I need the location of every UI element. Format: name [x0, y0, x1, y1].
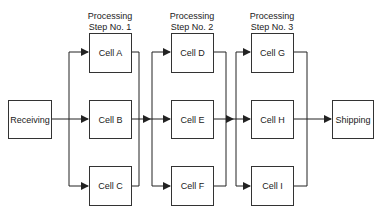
cell-d-box: Cell D	[171, 33, 214, 73]
cell-i-box: Cell I	[251, 166, 294, 206]
cell-a-box: Cell A	[89, 33, 132, 73]
step-2-title: Processing	[157, 11, 227, 22]
step-2-subtitle: Step No. 2	[157, 22, 227, 33]
step-3-title: Processing	[237, 11, 307, 22]
cell-h-box: Cell H	[251, 100, 294, 139]
cell-g-box: Cell G	[251, 33, 294, 73]
cell-h-label: Cell H	[260, 115, 285, 125]
cell-d-label: Cell D	[180, 48, 205, 58]
cell-a-label: Cell A	[99, 48, 123, 58]
step-2-header: ProcessingStep No. 2	[157, 11, 227, 33]
step-3-header: ProcessingStep No. 3	[237, 11, 307, 33]
step-1-title: Processing	[75, 11, 145, 22]
cell-c-box: Cell C	[89, 166, 132, 206]
cell-i-label: Cell I	[262, 181, 283, 191]
cell-e-box: Cell E	[171, 100, 214, 139]
cell-b-box: Cell B	[89, 100, 132, 139]
shipping-label: Shipping	[335, 115, 370, 125]
receiving-box: Receiving	[8, 100, 52, 139]
cell-g-label: Cell G	[260, 48, 285, 58]
cell-e-label: Cell E	[180, 115, 204, 125]
step-1-subtitle: Step No. 1	[75, 22, 145, 33]
step-1-header: ProcessingStep No. 1	[75, 11, 145, 33]
cell-f-label: Cell F	[181, 181, 205, 191]
shipping-box: Shipping	[332, 100, 374, 139]
cell-f-box: Cell F	[171, 166, 214, 206]
cell-b-label: Cell B	[98, 115, 122, 125]
receiving-label: Receiving	[10, 115, 50, 125]
step-3-subtitle: Step No. 3	[237, 22, 307, 33]
cell-c-label: Cell C	[98, 181, 123, 191]
